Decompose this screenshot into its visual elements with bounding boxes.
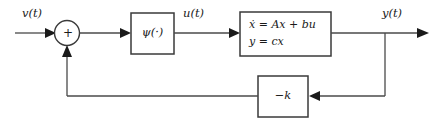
state-space-equation-state: ẋ = Ax + bu [249,19,316,30]
plant-input-arrowhead [229,28,240,38]
gain-input-arrowhead [309,91,320,101]
psi-block-label: ψ(·) [131,27,174,39]
block-diagram: + v(t) u(t) y(t) ψ(·) ẋ = Ax + bu y = cx… [0,0,432,127]
psi-input-arrowhead [120,28,131,38]
control-signal-label: u(t) [183,8,204,20]
diagram-canvas [0,0,432,127]
feedback-gain-label: −k [258,90,308,102]
input-signal-label: v(t) [22,8,42,20]
output-signal-label: y(t) [382,8,402,20]
sum-feedback-arrowhead [62,45,72,57]
summing-junction-sign: + [63,27,73,39]
state-space-equation-output: y = cx [249,36,284,47]
output-arrowhead [417,28,429,38]
